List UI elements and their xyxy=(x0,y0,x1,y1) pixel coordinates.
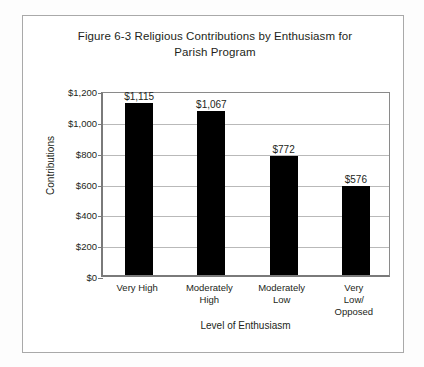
bar[interactable] xyxy=(342,186,370,275)
y-axis-tick-label: $200 xyxy=(45,241,97,252)
bar-value-label: $1,115 xyxy=(124,91,154,102)
figure-container: Figure 6-3 Religious Contributions by En… xyxy=(0,0,424,367)
chart-title: Figure 6-3 Religious Contributions by En… xyxy=(40,28,390,60)
x-axis-category-labels: Very HighModerately HighModerately LowVe… xyxy=(101,282,390,316)
y-axis-tick-mark xyxy=(98,93,103,94)
x-axis-category-label: Moderately Low xyxy=(258,282,305,306)
x-axis-title: Level of Enthusiasm xyxy=(101,320,390,331)
bar-value-label: $576 xyxy=(345,174,367,185)
x-axis-category-label: Moderately High xyxy=(186,282,233,306)
bar-value-label: $772 xyxy=(273,144,295,155)
bar[interactable] xyxy=(125,103,153,275)
x-axis-category-label: Very High xyxy=(117,282,158,294)
plot-area: $1,115$1,067$772$576 xyxy=(101,92,390,277)
y-axis-tick-label: $1,200 xyxy=(45,87,97,98)
y-axis-tick-mark xyxy=(98,216,103,217)
bar[interactable] xyxy=(197,111,225,275)
y-axis-tick-mark xyxy=(98,186,103,187)
y-axis-title: Contributions xyxy=(45,111,56,221)
y-axis-tick-mark xyxy=(98,278,103,279)
y-axis-tick-mark xyxy=(98,124,103,125)
x-axis-category-label: Very Low/ Opposed xyxy=(335,282,374,318)
chart-title-line-1: Figure 6-3 Religious Contributions by En… xyxy=(40,28,390,44)
bar-value-label: $1,067 xyxy=(196,99,227,110)
y-axis-tick-mark xyxy=(98,155,103,156)
y-axis-tick-mark xyxy=(98,247,103,248)
y-axis-tick-label: $0 xyxy=(45,272,97,283)
bar[interactable] xyxy=(270,156,298,275)
chart-title-line-2: Parish Program xyxy=(40,44,390,60)
